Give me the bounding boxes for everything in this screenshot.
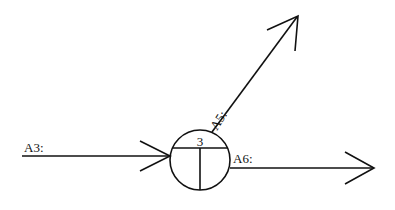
arrow-a3: A3: <box>22 140 170 171</box>
process-node: 3 <box>170 130 230 190</box>
arrow-a6-label: A6: <box>233 151 253 166</box>
node-number: 3 <box>197 134 204 149</box>
diagram-canvas: 3 A3: A5: A6: <box>0 0 395 210</box>
arrow-a6: A6: <box>230 151 374 184</box>
arrow-a5: A5: <box>207 16 298 133</box>
arrow-a3-label: A3: <box>24 140 44 155</box>
